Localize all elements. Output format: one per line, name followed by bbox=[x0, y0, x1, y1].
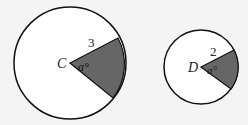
circle-c-group: C 3 a° bbox=[14, 7, 126, 119]
angle-label-d: a° bbox=[207, 64, 218, 76]
angle-label-c: a° bbox=[78, 60, 89, 74]
diagram: C 3 a° D 2 a° bbox=[0, 0, 248, 125]
circle-d-group: D 2 a° bbox=[164, 30, 238, 104]
radius-label-d: 2 bbox=[210, 44, 217, 59]
center-label-c: C bbox=[57, 56, 67, 71]
radius-label-c: 3 bbox=[88, 35, 95, 50]
center-label-d: D bbox=[187, 60, 198, 75]
